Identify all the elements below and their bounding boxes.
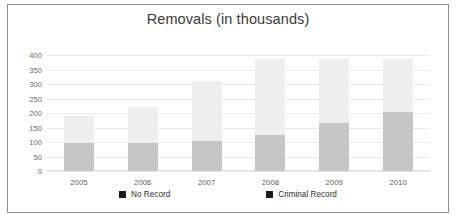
gridline [47, 99, 430, 100]
bar-segment[interactable] [383, 112, 413, 171]
y-axis-tick-label: 200 [29, 109, 42, 118]
bar-segment[interactable] [128, 107, 158, 142]
y-axis-tick-label: 50 [34, 152, 42, 161]
x-axis-tick-label: 2009 [326, 178, 343, 187]
y-axis-tick-label: 300 [29, 80, 42, 89]
bar-segment[interactable] [255, 135, 285, 171]
bar-stack[interactable]: 2010 [383, 59, 413, 171]
bar-segment[interactable] [383, 59, 413, 111]
gridline [47, 128, 430, 129]
legend-swatch-no-record [119, 191, 126, 198]
bar-segment[interactable] [319, 59, 349, 123]
gridline [47, 157, 430, 158]
x-axis-tick-label: 2007 [198, 178, 215, 187]
bar-segment[interactable] [64, 143, 94, 171]
y-axis-tick-label: 0 [38, 167, 42, 176]
y-axis-tick-label: 350 [29, 65, 42, 74]
chart-title: Removals (in thousands) [0, 11, 456, 27]
bar-segment[interactable] [192, 141, 222, 171]
gridline [47, 171, 430, 172]
bar-stack[interactable]: 2006 [128, 107, 158, 171]
legend-label: No Record [131, 190, 170, 199]
y-axis-tick-label: 100 [29, 138, 42, 147]
bar-segment[interactable] [255, 59, 285, 134]
chart-container: Removals (in thousands) 0501001502002503… [0, 0, 456, 223]
legend-item[interactable]: No Record [119, 190, 170, 199]
chart-legend: No RecordCriminal Record [7, 190, 449, 199]
bar-stack[interactable]: 2005 [64, 116, 94, 171]
bar-segment[interactable] [64, 116, 94, 144]
plot-area: 050100150200250300350400 200520062007200… [47, 55, 430, 171]
bar-stack[interactable]: 2008 [255, 59, 285, 171]
y-axis-tick-label: 150 [29, 123, 42, 132]
gridline [47, 142, 430, 143]
legend-label: Criminal Record [278, 190, 337, 199]
bar-segment[interactable] [192, 81, 222, 140]
gridline [47, 113, 430, 114]
legend-swatch-criminal-record [266, 191, 273, 198]
x-axis-line [47, 170, 430, 171]
x-axis-tick-label: 2005 [70, 178, 87, 187]
legend-item[interactable]: Criminal Record [266, 190, 337, 199]
gridline [47, 70, 430, 71]
y-axis-tick-label: 250 [29, 94, 42, 103]
bar-segment[interactable] [319, 123, 349, 171]
bar-stack[interactable]: 2009 [319, 59, 349, 171]
x-axis-tick-label: 2010 [389, 178, 406, 187]
gridline [47, 84, 430, 85]
bar-stack[interactable]: 2007 [192, 81, 222, 171]
gridline [47, 55, 430, 56]
x-axis-tick-label: 2006 [134, 178, 151, 187]
x-axis-tick-label: 2008 [262, 178, 279, 187]
bar-segment[interactable] [128, 143, 158, 171]
y-axis-tick-label: 400 [29, 51, 42, 60]
